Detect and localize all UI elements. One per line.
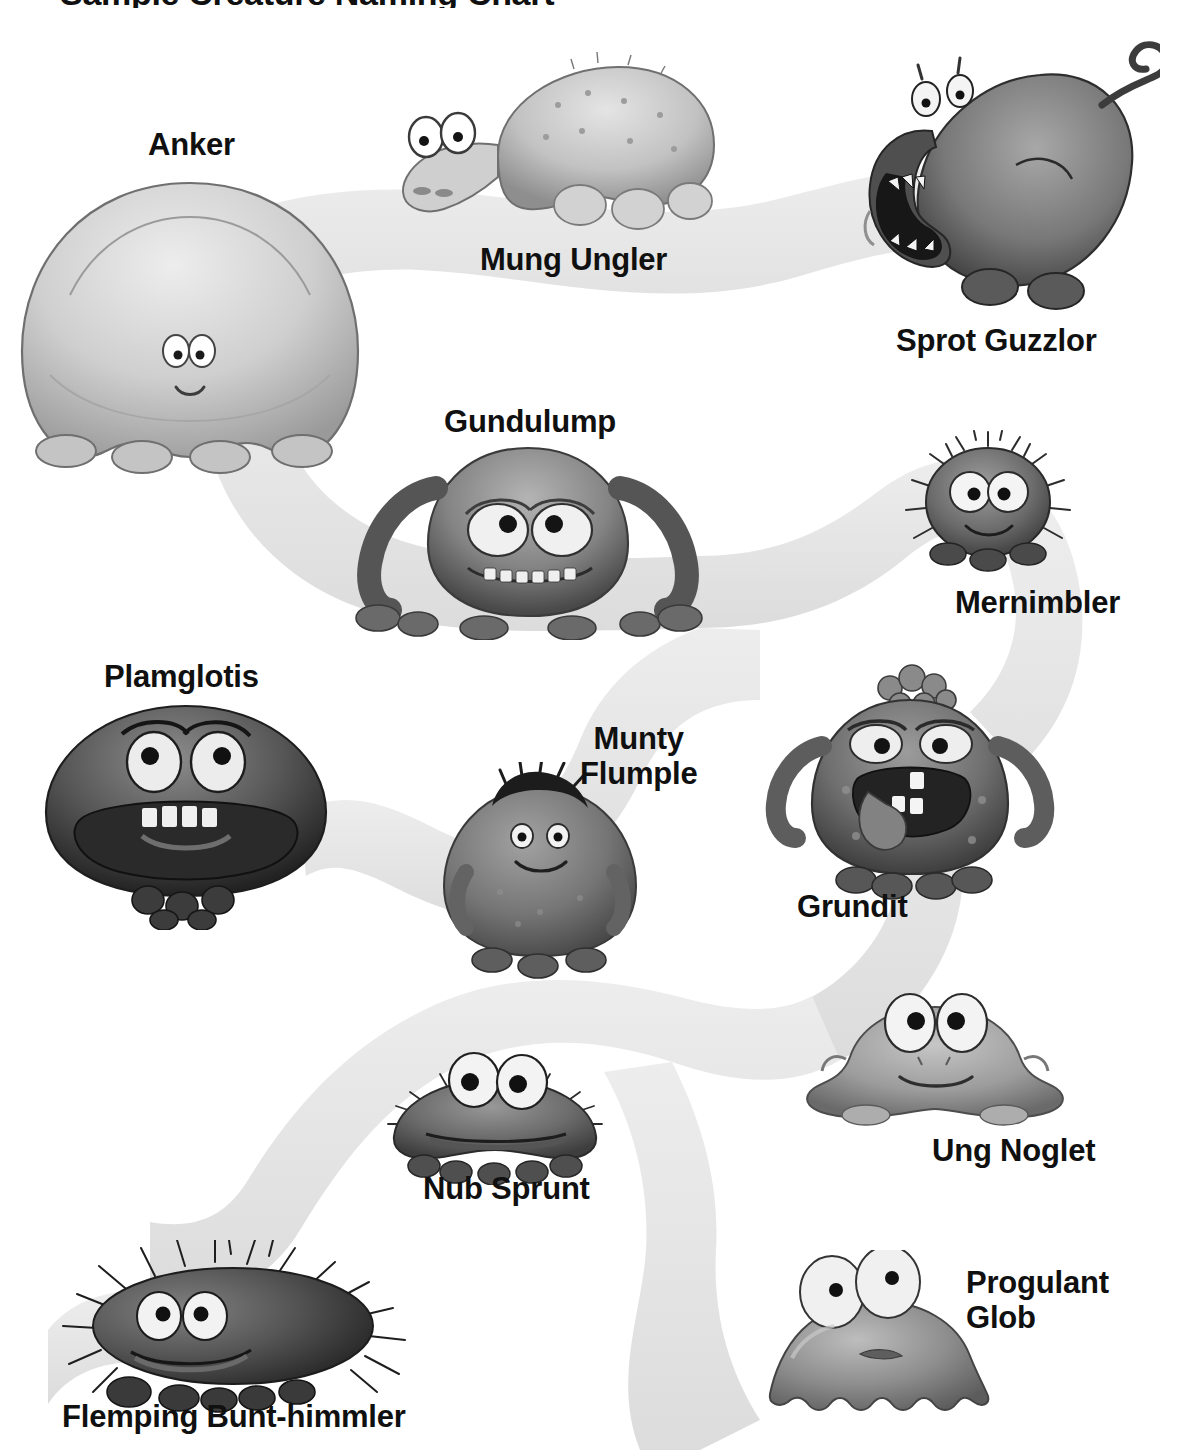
page-title: Sample Creature Naming Chart [0, 0, 1181, 8]
creature-art-anker [10, 175, 370, 480]
creature-art-plamglotis [36, 700, 336, 930]
label-ung-noglet: Ung Noglet [932, 1134, 1095, 1169]
creature-chart-page: Sample Creature Naming Chart [0, 0, 1181, 1450]
label-progulant-glob: Progulant Glob [966, 1266, 1109, 1335]
creature-art-ung-noglet [800, 985, 1070, 1130]
label-flemping-bunt-himmler: Flemping Bunt-himmler [62, 1400, 406, 1435]
label-munty-flumple: Munty Flumple [580, 722, 697, 791]
label-plamglotis: Plamglotis [104, 660, 259, 695]
creature-art-mernimbler [886, 430, 1091, 580]
label-gundulump: Gundulump [444, 405, 616, 440]
creature-art-munty-flumple [430, 762, 650, 982]
creature-art-progulant-glob [740, 1250, 1000, 1425]
creature-art-gundulump [318, 440, 738, 640]
creature-art-grundit [760, 660, 1060, 910]
label-grundit: Grundit [797, 890, 908, 925]
creature-art-mung-ungler [378, 45, 723, 235]
creature-art-nub-sprunt [370, 1050, 620, 1185]
creature-art-flemping-bunt-himmler [55, 1240, 445, 1415]
creature-art-sprot-guzzlor [840, 35, 1160, 320]
label-mung-ungler: Mung Ungler [480, 243, 667, 278]
label-sprot-guzzlor: Sprot Guzzlor [896, 324, 1097, 359]
label-nub-sprunt: Nub Sprunt [423, 1172, 590, 1207]
label-anker: Anker [148, 128, 235, 163]
label-mernimbler: Mernimbler [955, 586, 1120, 621]
